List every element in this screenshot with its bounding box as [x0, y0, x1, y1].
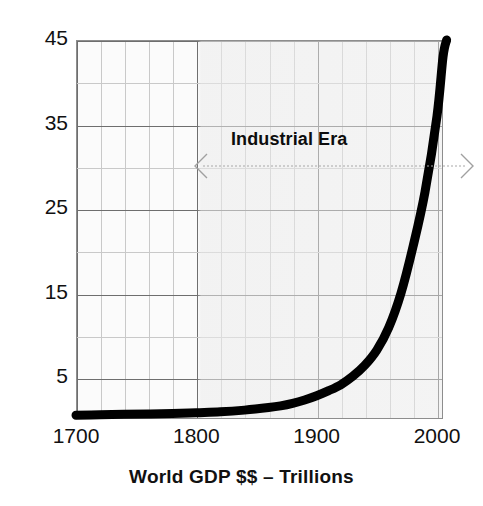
y-axis-tick-label: 5 — [0, 364, 78, 388]
gridline-vertical — [125, 41, 126, 418]
gridline-vertical — [245, 41, 246, 418]
x-axis-tick-label: 1900 — [277, 424, 357, 448]
y-axis-tick-label: 45 — [0, 26, 78, 50]
y-axis-tick-label: 25 — [0, 195, 78, 219]
industrial-era-label: Industrial Era — [231, 129, 347, 150]
gridline-vertical — [366, 41, 367, 418]
x-axis-tick-label: 2000 — [397, 424, 477, 448]
chart-figure: 515253545 1700180019002000 Industrial Er… — [0, 0, 483, 506]
gridline-horizontal — [77, 83, 442, 84]
y-axis-tick-label: 15 — [0, 280, 78, 304]
gridline-vertical — [318, 41, 319, 418]
arrow-head-left — [195, 154, 207, 178]
paper-shading — [77, 41, 442, 418]
gridline-vertical — [294, 41, 295, 418]
gridline-vertical — [342, 41, 343, 418]
gridline-horizontal — [77, 379, 442, 380]
gridline-horizontal — [77, 295, 442, 296]
gridline-vertical — [390, 41, 391, 418]
chart-title: World GDP $$ – Trillions — [0, 466, 483, 488]
gridline-vertical — [197, 41, 198, 418]
gridline-vertical — [149, 41, 150, 418]
y-axis-tick-label: 35 — [0, 111, 78, 135]
gridline-horizontal — [77, 252, 442, 253]
x-axis-tick-label: 1700 — [36, 424, 116, 448]
gridline-horizontal — [77, 337, 442, 338]
gridline-horizontal — [77, 41, 442, 42]
arrow-head-right — [461, 154, 473, 178]
industrial-era-arrow — [193, 150, 475, 182]
gridline-vertical — [270, 41, 271, 418]
gridline-vertical — [414, 41, 415, 418]
gridline-vertical — [438, 41, 439, 418]
plot-area — [76, 40, 443, 419]
x-axis-tick-label: 1800 — [156, 424, 236, 448]
gridline-vertical — [173, 41, 174, 418]
gridline-vertical — [77, 41, 78, 418]
gridline-horizontal — [77, 126, 442, 127]
gridline-vertical — [221, 41, 222, 418]
gridline-horizontal — [77, 210, 442, 211]
gridline-vertical — [101, 41, 102, 418]
